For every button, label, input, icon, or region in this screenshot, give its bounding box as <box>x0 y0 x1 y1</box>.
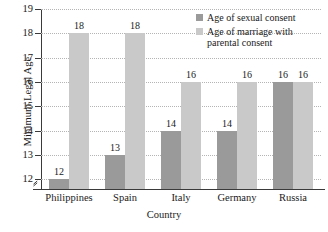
bar-value-label: 14 <box>166 119 176 129</box>
x-axis-line <box>33 189 325 190</box>
x-axis-tick-label: Philippines <box>45 192 92 203</box>
legend-swatch-icon <box>196 14 203 21</box>
x-axis-tick-label: Spain <box>113 192 137 203</box>
legend-swatch-icon <box>196 28 203 35</box>
bar-value-label: 16 <box>278 70 288 80</box>
bar-value-label: 14 <box>222 119 232 129</box>
y-axis-tick-label: 14 <box>14 125 33 136</box>
x-axis-tick-label: Germany <box>217 192 256 203</box>
bar-value-label: 12 <box>54 167 64 177</box>
bar-value-label: 18 <box>130 21 140 31</box>
legend: Age of sexual consent Age of marriage wi… <box>196 12 296 51</box>
bar-group: 1218 <box>41 9 97 189</box>
bar-value-label: 18 <box>74 21 84 31</box>
x-axis-tick-label: Russia <box>279 192 307 203</box>
bar <box>161 131 181 189</box>
bar-chart: Minimum Legal Age 1213141516171819 12181… <box>0 0 328 232</box>
bar <box>181 82 201 189</box>
legend-item-sexual-consent: Age of sexual consent <box>196 12 296 24</box>
bar-value-label: 16 <box>186 70 196 80</box>
bar <box>49 179 69 189</box>
y-axis-tick-label: 13 <box>14 150 33 161</box>
x-axis-tick-label: Italy <box>171 192 190 203</box>
legend-item-marriage-consent: Age of marriage with parental consent <box>196 26 296 49</box>
x-axis-title: Country <box>0 209 328 220</box>
bar-value-label: 13 <box>110 143 120 153</box>
bar <box>273 82 293 189</box>
bar <box>293 82 313 189</box>
bar-group: 1318 <box>97 9 153 189</box>
legend-label: Age of marriage with parental consent <box>207 26 293 49</box>
bar-value-label: 16 <box>242 70 252 80</box>
bar <box>237 82 257 189</box>
y-axis-tick-label: 18 <box>14 28 33 39</box>
bar-value-label: 16 <box>298 70 308 80</box>
y-axis-tick-label: 19 <box>14 4 33 15</box>
bar <box>125 33 145 189</box>
bar <box>105 155 125 189</box>
bar <box>217 131 237 189</box>
y-axis-tick-label: 12 <box>14 174 33 185</box>
y-axis-tick-label: 15 <box>14 101 33 112</box>
y-axis-tick-label: 16 <box>14 77 33 88</box>
bar <box>69 33 89 189</box>
y-axis-tick-label: 17 <box>14 52 33 63</box>
legend-label: Age of sexual consent <box>207 12 296 24</box>
